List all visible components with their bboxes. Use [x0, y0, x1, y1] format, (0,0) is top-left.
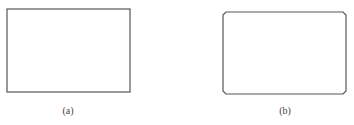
square-rectangle — [7, 9, 130, 92]
chamfered-rectangle — [223, 12, 346, 94]
figure-label-a: (a) — [48, 105, 88, 116]
figure-label-b: (b) — [265, 105, 305, 116]
